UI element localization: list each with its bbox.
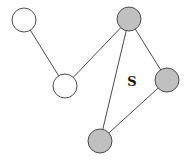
node-n3-gray	[117, 7, 141, 31]
graph-diagram: S	[0, 0, 187, 161]
labels-group: S	[127, 74, 136, 89]
edge-n3-n5	[100, 19, 129, 141]
subgraph-label: S	[127, 74, 136, 89]
node-n2-white	[53, 74, 77, 98]
node-n1-white	[12, 8, 36, 32]
edge-n2-n3	[65, 19, 129, 86]
node-n5-gray	[88, 129, 112, 153]
edge-n4-n5	[100, 80, 167, 141]
edges-group	[24, 19, 167, 141]
nodes-group	[12, 7, 179, 153]
node-n4-gray	[155, 68, 179, 92]
